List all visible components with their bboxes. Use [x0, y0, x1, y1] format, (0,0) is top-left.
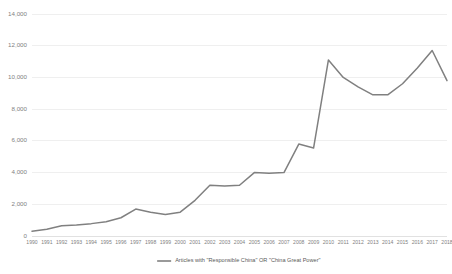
x-axis-tick-label: 2002	[204, 239, 215, 245]
x-axis-tick-label: 2005	[249, 239, 260, 245]
y-axis-tick-label: 6,000	[12, 136, 28, 143]
x-axis-tick-label: 2018	[441, 239, 452, 245]
x-axis-tick-label: 1992	[56, 239, 67, 245]
x-axis-tick-label: 1999	[160, 239, 171, 245]
x-axis-tick-label: 1994	[86, 239, 97, 245]
x-axis-tick-label: 2012	[352, 239, 363, 245]
y-axis-tick-label: 2,000	[12, 200, 28, 207]
gridlines	[32, 14, 447, 236]
x-axis-tick-label: 1993	[71, 239, 82, 245]
y-axis-tick-label: 0	[24, 232, 28, 239]
x-axis-tick-label: 1998	[145, 239, 156, 245]
x-axis-tick-labels: 1990199119921993199419951996199719981999…	[26, 239, 452, 245]
x-axis-tick-label: 2015	[397, 239, 408, 245]
x-axis-tick-label: 2000	[175, 239, 186, 245]
line-chart: 02,0004,0006,0008,00010,00012,00014,000 …	[0, 0, 452, 274]
chart-canvas: 02,0004,0006,0008,00010,00012,00014,000 …	[0, 0, 452, 274]
x-axis-tick-label: 2011	[338, 239, 349, 245]
x-axis-tick-label: 2016	[412, 239, 423, 245]
x-axis-tick-label: 2013	[367, 239, 378, 245]
x-axis-tick-label: 2009	[308, 239, 319, 245]
x-axis-tick-label: 2010	[323, 239, 334, 245]
x-axis-tick-label: 2006	[263, 239, 274, 245]
x-axis-tick-label: 1996	[115, 239, 126, 245]
y-axis-tick-labels: 02,0004,0006,0008,00010,00012,00014,000	[8, 10, 27, 239]
chart-legend: Articles with "Responsible China" OR "Ch…	[157, 257, 320, 263]
x-axis-tick-label: 1995	[100, 239, 111, 245]
x-axis-tick-label: 2008	[293, 239, 304, 245]
x-axis-tick-label: 1990	[26, 239, 37, 245]
y-axis-tick-label: 10,000	[8, 73, 27, 80]
x-axis-tick-label: 2004	[234, 239, 245, 245]
x-axis-tick-label: 2007	[278, 239, 289, 245]
y-axis-tick-label: 14,000	[8, 10, 27, 17]
x-axis-tick-label: 2017	[427, 239, 438, 245]
y-axis-tick-label: 8,000	[12, 105, 28, 112]
x-axis-tick-label: 2014	[382, 239, 393, 245]
x-axis-tick-label: 2003	[219, 239, 230, 245]
y-axis-tick-label: 12,000	[8, 41, 27, 48]
y-axis-tick-label: 4,000	[12, 168, 28, 175]
legend-label: Articles with "Responsible China" OR "Ch…	[175, 257, 320, 263]
x-axis-tick-label: 1997	[130, 239, 141, 245]
x-axis-tick-label: 1991	[41, 239, 52, 245]
x-axis-tick-label: 2001	[189, 239, 200, 245]
